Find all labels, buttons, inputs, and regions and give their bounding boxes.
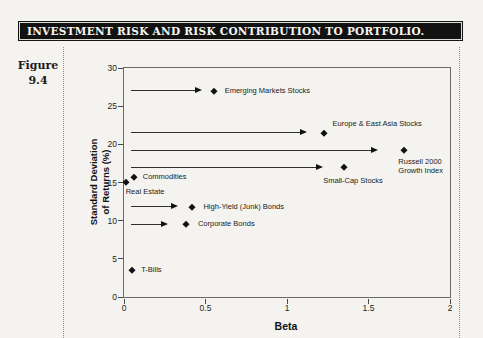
point-label-line: High-Yield (Junk) Bonds [203, 202, 284, 211]
x-tick-label: 0.5 [195, 303, 217, 313]
data-point [183, 221, 189, 227]
x-tick-label: 1.5 [358, 303, 380, 313]
beta-arrow-line [131, 206, 172, 207]
beta-arrow-line [131, 167, 317, 168]
figure-number: 9.4 [18, 73, 58, 88]
point-label: Commodities [143, 172, 187, 181]
data-point [341, 164, 347, 170]
x-tick-label: 1 [276, 303, 298, 313]
y-tick-label: 15 [93, 178, 117, 188]
beta-arrow-head-icon [195, 87, 202, 93]
figure-title: INVESTMENT RISK AND RISK CONTRIBUTION TO… [20, 25, 424, 37]
figure-page: INVESTMENT RISK AND RISK CONTRIBUTION TO… [0, 0, 483, 338]
figure-number-label: Figure 9.4 [18, 58, 58, 88]
data-point [189, 204, 195, 210]
figure-title-bar-fill: INVESTMENT RISK AND RISK CONTRIBUTION TO… [20, 23, 461, 39]
data-point [401, 147, 407, 153]
point-label: Corporate Bonds [198, 219, 255, 228]
point-label: Russell 2000Growth Index [398, 157, 443, 175]
y-tick-label: 30 [93, 63, 117, 73]
point-label: Emerging Markets Stocks [225, 86, 310, 95]
beta-arrow-head-icon [371, 147, 378, 153]
plot-area: 05101520253000.511.52T-BillsCorporate Bo… [123, 67, 451, 298]
point-label-line: Commodities [143, 172, 187, 181]
y-tick-label: 0 [93, 292, 117, 302]
beta-arrow-line [131, 132, 301, 133]
point-label: High-Yield (Junk) Bonds [203, 202, 284, 211]
beta-arrow-line [131, 90, 197, 91]
x-axis-title: Beta [275, 320, 298, 332]
point-label-line: Small-Cap Stocks [323, 176, 383, 185]
y-tick-label: 20 [93, 139, 117, 149]
data-point [210, 88, 216, 94]
right-dotted-rule [459, 47, 460, 338]
y-tick-mark [118, 144, 123, 145]
y-tick-mark [118, 68, 123, 69]
beta-arrow-head-icon [300, 129, 307, 135]
point-label-line: Russell 2000 [398, 157, 443, 166]
point-label-line: Corporate Bonds [198, 219, 255, 228]
data-point [129, 267, 135, 273]
left-dotted-rule [63, 47, 64, 338]
y-tick-mark [118, 258, 123, 259]
beta-arrow-line [131, 224, 162, 225]
point-label: Small-Cap Stocks [323, 176, 383, 185]
beta-arrow-head-icon [171, 203, 178, 209]
point-label: Europe & East Asia Stocks [332, 119, 421, 128]
y-tick-mark [118, 297, 123, 298]
data-point [321, 130, 327, 136]
x-tick-label: 2 [439, 303, 461, 313]
y-tick-label: 10 [93, 216, 117, 226]
point-label-line: Growth Index [398, 166, 443, 175]
point-label-line: Real Estate [126, 187, 165, 196]
point-label-line: Emerging Markets Stocks [225, 86, 310, 95]
y-tick-mark [118, 106, 123, 107]
x-tick-label: 0 [113, 303, 135, 313]
beta-arrow-head-icon [161, 221, 168, 227]
figure-word: Figure [18, 58, 58, 73]
point-label: Real Estate [126, 187, 165, 196]
y-tick-label: 5 [93, 254, 117, 264]
beta-arrow-line [131, 150, 373, 151]
point-label-line: T-Bills [141, 265, 161, 274]
figure-title-bar: INVESTMENT RISK AND RISK CONTRIBUTION TO… [18, 21, 463, 41]
data-point [131, 174, 137, 180]
y-tick-label: 25 [93, 101, 117, 111]
point-label: T-Bills [141, 265, 161, 274]
point-label-line: Europe & East Asia Stocks [332, 119, 421, 128]
beta-arrow-head-icon [316, 164, 323, 170]
data-point [122, 178, 128, 184]
y-tick-mark [118, 220, 123, 221]
